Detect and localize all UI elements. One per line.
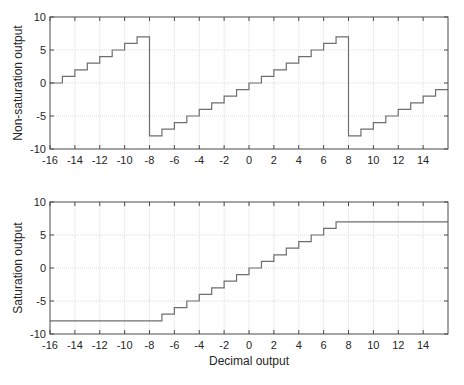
x-tick-label: 10 (367, 154, 379, 166)
x-tick-label: 4 (296, 339, 302, 351)
x-tick-label: 2 (271, 339, 277, 351)
y-tick-label: 10 (34, 196, 46, 208)
x-tick-label: 4 (296, 154, 302, 166)
x-tick-label: -6 (169, 154, 179, 166)
x-tick-label: -10 (117, 154, 133, 166)
x-tick-label: -16 (42, 154, 58, 166)
x-tick-label: -12 (92, 154, 108, 166)
saturation-plot: -16-14-12-10-8-6-4-202468101214-10-50510… (11, 196, 448, 368)
x-tick-label: 2 (271, 154, 277, 166)
y-tick-label: 0 (40, 262, 46, 274)
x-tick-label: -2 (219, 339, 229, 351)
x-tick-label: 14 (417, 339, 429, 351)
x-tick-label: 8 (345, 154, 351, 166)
y-tick-label: 10 (34, 11, 46, 23)
x-tick-label: -2 (219, 154, 229, 166)
x-tick-label: -4 (194, 339, 204, 351)
x-tick-label: 10 (367, 339, 379, 351)
x-tick-label: -8 (145, 154, 155, 166)
figure: -16-14-12-10-8-6-4-202468101214-10-50510… (0, 0, 464, 385)
x-tick-label: 8 (345, 339, 351, 351)
y-tick-label: -5 (36, 110, 46, 122)
x-axis-label: Decimal output (209, 354, 290, 368)
y-tick-label: 5 (40, 44, 46, 56)
x-tick-label: -14 (67, 154, 83, 166)
non-saturation-plot: -16-14-12-10-8-6-4-202468101214-10-50510… (11, 11, 448, 166)
y-tick-label: -10 (30, 328, 46, 340)
x-tick-label: -14 (67, 339, 83, 351)
y-axis-label: Saturation output (11, 222, 25, 314)
x-tick-label: 6 (321, 154, 327, 166)
x-tick-label: 0 (246, 154, 252, 166)
x-tick-label: 0 (246, 339, 252, 351)
y-tick-label: 5 (40, 229, 46, 241)
x-tick-label: -6 (169, 339, 179, 351)
x-tick-label: -8 (145, 339, 155, 351)
x-tick-label: 12 (392, 154, 404, 166)
y-tick-label: -10 (30, 143, 46, 155)
x-tick-label: -16 (42, 339, 58, 351)
x-tick-label: 14 (417, 154, 429, 166)
x-tick-label: 6 (321, 339, 327, 351)
y-tick-label: 0 (40, 77, 46, 89)
x-tick-label: -12 (92, 339, 108, 351)
x-tick-label: -4 (194, 154, 204, 166)
y-axis-label: Non-saturation output (11, 25, 25, 141)
x-tick-label: -10 (117, 339, 133, 351)
x-tick-label: 12 (392, 339, 404, 351)
y-tick-label: -5 (36, 295, 46, 307)
